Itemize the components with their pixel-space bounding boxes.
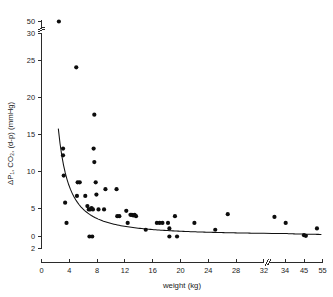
data-point — [304, 234, 308, 238]
y-tick-label-15: 15 — [27, 130, 35, 139]
x-tick-label-24: 24 — [204, 266, 212, 275]
data-point — [92, 160, 96, 164]
y-tick-label-25: 25 — [27, 56, 35, 65]
y-axis: 50 30 25 20 15 10 5 0 2 — [27, 17, 45, 253]
data-point — [272, 215, 276, 219]
x-tick-label-45: 45 — [300, 266, 308, 275]
scatter-plot-figure: 50 30 25 20 15 10 5 0 2 ΔP₁, CO₂, (d-p) … — [0, 0, 333, 297]
data-point — [167, 234, 171, 238]
data-point — [102, 207, 106, 211]
data-point — [144, 228, 148, 232]
fit-curve — [58, 129, 321, 235]
x-tick-label-55: 55 — [318, 266, 326, 275]
data-point — [103, 187, 107, 191]
data-point — [57, 19, 61, 23]
x-tick-label-16: 16 — [149, 266, 157, 275]
x-tick-label-32: 32 — [260, 266, 268, 275]
data-point — [96, 207, 100, 211]
data-point — [94, 180, 98, 184]
data-points-group — [57, 19, 319, 238]
data-point — [284, 221, 288, 225]
data-point — [74, 65, 78, 69]
data-point — [192, 221, 196, 225]
y-axis-title: ΔP₁, CO₂, (d-p) (mmHg) — [6, 101, 15, 185]
data-point — [94, 192, 98, 196]
x-tick-label-12: 12 — [121, 266, 129, 275]
data-point — [61, 146, 65, 150]
y-tick-label-5: 5 — [31, 204, 35, 213]
data-point — [315, 226, 319, 230]
data-point — [213, 228, 217, 232]
y-tick-label-50: 50 — [27, 17, 35, 26]
y-tick-label-20: 20 — [27, 93, 35, 102]
x-axis-title: weight (kg) — [162, 281, 202, 290]
data-point — [61, 153, 65, 157]
x-tick-label-8: 8 — [95, 266, 99, 275]
y-tick-label-30: 30 — [27, 29, 35, 38]
data-point — [117, 214, 121, 218]
data-point — [126, 221, 130, 225]
data-point — [90, 234, 94, 238]
x-tick-label-0: 0 — [39, 266, 43, 275]
y-tick-label-10: 10 — [27, 167, 35, 176]
data-point — [92, 113, 96, 117]
data-point — [91, 207, 95, 211]
x-tick-label-34: 34 — [281, 266, 289, 275]
x-tick-label-20: 20 — [176, 266, 184, 275]
x-tick-label-4: 4 — [67, 266, 71, 275]
data-point — [78, 180, 82, 184]
data-point — [175, 234, 179, 238]
x-tick-label-28: 28 — [232, 266, 240, 275]
data-point — [166, 221, 170, 225]
data-point — [226, 212, 230, 216]
data-point — [62, 174, 66, 178]
plot-canvas: 50 30 25 20 15 10 5 0 2 ΔP₁, CO₂, (d-p) … — [0, 0, 333, 297]
data-point — [92, 146, 96, 150]
data-point — [167, 226, 171, 230]
y-tick-label-minus2: 2 — [31, 244, 35, 253]
data-point — [75, 194, 79, 198]
data-point — [63, 201, 67, 205]
data-point — [83, 194, 87, 198]
x-axis: 0 4 8 12 16 20 24 28 32 34 45 55 — [39, 259, 326, 276]
data-point — [114, 187, 118, 191]
data-point — [64, 221, 68, 225]
data-point — [173, 214, 177, 218]
y-tick-label-0: 0 — [31, 232, 35, 241]
data-point — [134, 214, 138, 218]
data-point — [124, 209, 128, 213]
data-point — [160, 221, 164, 225]
